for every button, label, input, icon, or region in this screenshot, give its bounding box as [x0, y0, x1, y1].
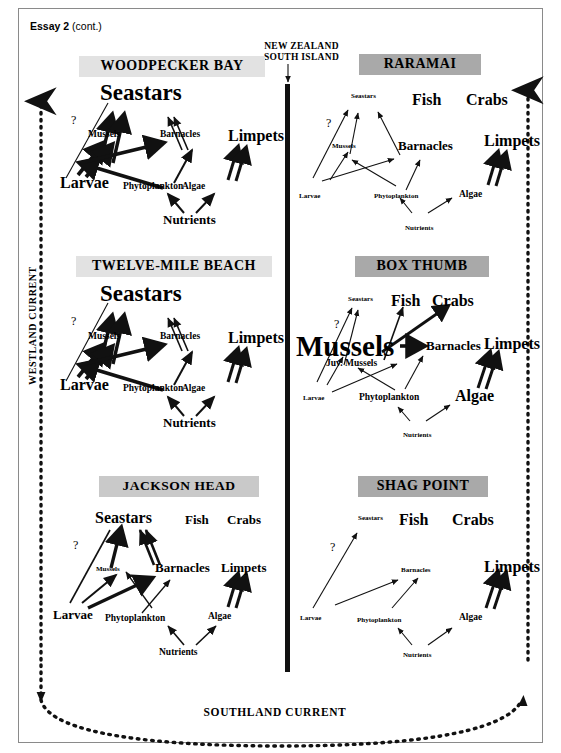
- node-limpets: Limpets: [484, 559, 540, 575]
- node-seastars: Seastars: [358, 515, 383, 522]
- node-fish: Fish: [399, 512, 428, 528]
- diagram-page: Essay 2 (cont.) NEW ZEALAND SOUTH ISLAND…: [0, 0, 561, 753]
- node-barnacles: Barnacles: [401, 567, 431, 574]
- node-algae: Algae: [459, 613, 482, 623]
- node-larvae: Larvae: [300, 615, 321, 622]
- uncertain-link-marker: ?: [330, 540, 335, 555]
- node-nutrients: Nutrients: [403, 652, 431, 659]
- food-web-arrows-shag-point: [0, 0, 561, 753]
- node-phytoplankton: Phytoplankton: [357, 617, 401, 624]
- node-crabs: Crabs: [452, 512, 494, 528]
